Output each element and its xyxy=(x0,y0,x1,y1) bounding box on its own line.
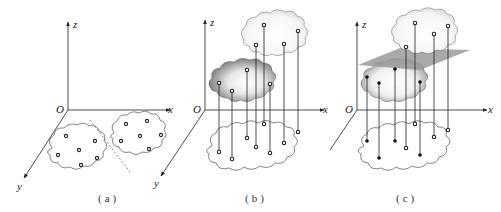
x-axis-label: x xyxy=(168,104,173,115)
figure-canvas xyxy=(0,0,501,212)
z-axis-label: z xyxy=(362,19,366,30)
panel-c xyxy=(330,8,487,171)
panel-b xyxy=(161,10,324,176)
panel-a xyxy=(24,22,170,178)
origin-label: O xyxy=(193,104,201,115)
z-axis-label: z xyxy=(73,19,77,30)
y-axis xyxy=(330,110,357,150)
y-axis-label: y xyxy=(17,181,22,192)
caption-a: (a) xyxy=(98,193,119,204)
y-axis xyxy=(161,110,205,176)
x-axis-label: x xyxy=(323,104,328,115)
origin-label: O xyxy=(56,104,64,115)
caption-b: (b) xyxy=(245,193,267,204)
origin-label: O xyxy=(345,104,353,115)
caption-c: (c) xyxy=(396,193,417,204)
cluster-cloud-right xyxy=(111,111,166,154)
y-axis-label: y xyxy=(154,178,159,189)
projection-cloud xyxy=(358,121,450,171)
x-axis-label: x xyxy=(488,104,493,115)
z-axis-label: z xyxy=(210,17,214,28)
